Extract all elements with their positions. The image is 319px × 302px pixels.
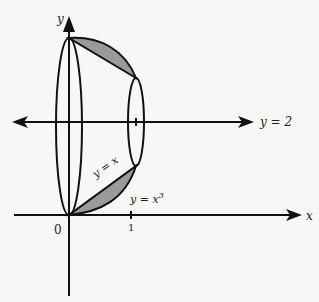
line-y2-label: y = 2 [260,115,292,129]
y-axis-label: y [57,12,64,26]
diagram-canvas [0,0,319,302]
y-axis-arrow-icon [63,16,75,32]
curve-cubic-base: y = x [130,193,159,206]
curve-cubic-label: y = x3 [130,191,164,206]
x-axis-label: x [306,209,313,223]
curve-cubic-exponent: 3 [159,191,164,200]
origin-label: 0 [54,223,62,237]
tick-label-one: 1 [128,222,134,233]
diagram: y x 0 1 y = 2 y = x y = x3 [0,0,319,302]
